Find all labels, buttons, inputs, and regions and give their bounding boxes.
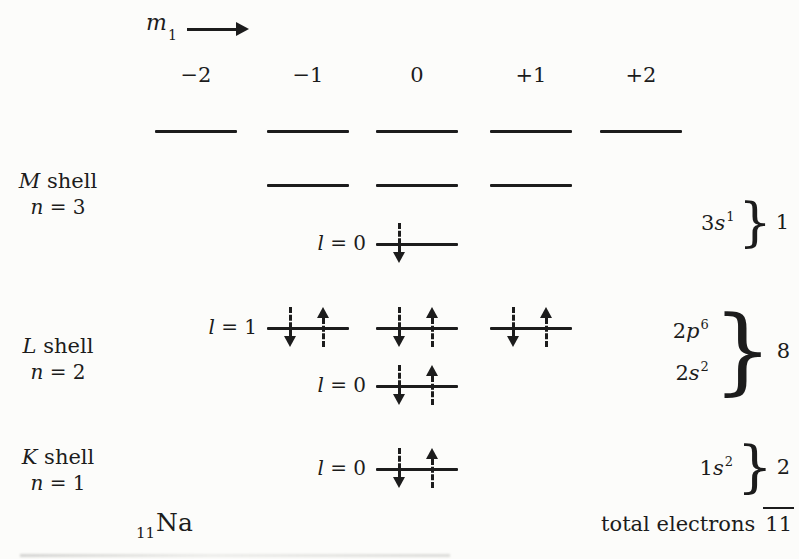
principal-quantum-number: n = 2 bbox=[6, 359, 110, 385]
total-electrons: total electrons 11 bbox=[601, 507, 794, 536]
shell-name: M shell bbox=[6, 168, 110, 194]
k-shell-label: K shell n = 1 bbox=[6, 444, 110, 496]
total-electrons-label: total electrons bbox=[601, 512, 755, 536]
orbital-term-3s1: 3s1 bbox=[701, 210, 734, 235]
total-electrons-value: 11 bbox=[763, 507, 794, 536]
orbital-letter: s bbox=[689, 361, 700, 385]
brace: } bbox=[737, 442, 773, 492]
energy-level-line-3d-m-1 bbox=[267, 130, 349, 133]
atomic-number-subscript: 11 bbox=[136, 524, 155, 542]
orbital-term-1s2: 1s2 bbox=[700, 455, 733, 480]
orbital-coef: 3 bbox=[701, 211, 714, 235]
arrow-dashed-shaft bbox=[545, 318, 548, 347]
arrow-head bbox=[284, 336, 296, 347]
orbital-quantum-label-1s: l = 0 bbox=[274, 454, 366, 482]
orbital-superscript: 2 bbox=[701, 359, 709, 374]
orbital-term-2s2: 2s2 bbox=[675, 360, 708, 385]
arrow-dashed-shaft bbox=[398, 365, 401, 394]
m-shell-label: M shell n = 3 bbox=[6, 168, 110, 220]
energy-level-line-1s-m0 bbox=[376, 468, 458, 471]
energy-level-line-2p-m-1 bbox=[267, 327, 349, 330]
arrow-head bbox=[426, 448, 438, 459]
orbital-letter: s bbox=[714, 211, 725, 235]
sodium-electron-configuration-diagram: m1 −2−10+1+2 l = 0l = 1l = 0l = 0 M shel… bbox=[0, 0, 799, 559]
arrow-dashed-shaft bbox=[398, 448, 401, 477]
m1-value-header--2: −2 bbox=[161, 63, 231, 87]
electron-spin-down-arrow bbox=[393, 448, 405, 488]
energy-level-line-3d-m-2 bbox=[155, 130, 237, 133]
orbital-superscript: 1 bbox=[726, 209, 734, 224]
arrow-head bbox=[507, 336, 519, 347]
arrow-dashed-shaft bbox=[512, 307, 515, 336]
arrow-dashed-shaft bbox=[431, 376, 434, 405]
energy-level-line-3s-m0 bbox=[376, 243, 458, 246]
orbital-letter: p bbox=[686, 319, 699, 343]
energy-level-line-2p-m+1 bbox=[490, 327, 572, 330]
arrow-dashed-shaft bbox=[398, 223, 401, 252]
electron-spin-up-arrow bbox=[426, 448, 438, 488]
m1-value-header-0: 0 bbox=[382, 63, 452, 87]
energy-level-line-3d-m0 bbox=[376, 130, 458, 133]
shell-word: shell bbox=[43, 334, 93, 358]
shell-letter: M bbox=[19, 169, 41, 193]
orbital-coef: 2 bbox=[673, 319, 686, 343]
arrow-head bbox=[393, 477, 405, 488]
electron-spin-up-arrow bbox=[317, 307, 329, 347]
energy-level-line-3d-m+1 bbox=[490, 130, 572, 133]
electron-count-3s: 1 bbox=[776, 210, 789, 234]
energy-level-line-2p-m0 bbox=[376, 327, 458, 330]
n-value: = 2 bbox=[43, 360, 85, 384]
shell-letter: K bbox=[22, 445, 38, 469]
electron-spin-down-arrow bbox=[393, 307, 405, 347]
right-arrow-icon bbox=[187, 22, 251, 36]
element-symbol-na: 11Na bbox=[136, 508, 193, 537]
arrow-head bbox=[426, 365, 438, 376]
arrow-dashed-shaft bbox=[289, 307, 292, 336]
m1-value-header-+1: +1 bbox=[496, 63, 566, 87]
arrow-head bbox=[393, 252, 405, 263]
arrow-shaft bbox=[187, 28, 237, 31]
n-value: = 1 bbox=[43, 471, 85, 495]
arrow-head bbox=[317, 307, 329, 318]
orbital-quantum-label-2p: l = 1 bbox=[165, 313, 257, 341]
arrow-head bbox=[393, 336, 405, 347]
n-value: = 3 bbox=[43, 195, 85, 219]
orbital-superscript: 6 bbox=[701, 317, 709, 332]
electron-count-l-shell: 8 bbox=[777, 339, 790, 363]
shell-name: K shell bbox=[6, 444, 110, 470]
m1-subscript: 1 bbox=[168, 27, 177, 43]
arrow-dashed-shaft bbox=[431, 459, 434, 488]
electron-count-1s: 2 bbox=[777, 455, 790, 479]
l-shell-label: L shell n = 2 bbox=[6, 333, 110, 385]
orbital-coef: 1 bbox=[700, 456, 713, 480]
electron-spin-down-arrow bbox=[507, 307, 519, 347]
energy-level-line-3p-m+1 bbox=[490, 184, 572, 187]
page-crop-text-artifact bbox=[20, 554, 450, 557]
shell-word: shell bbox=[44, 445, 94, 469]
electron-spin-down-arrow bbox=[284, 307, 296, 347]
n-symbol: n bbox=[30, 195, 43, 219]
n-symbol: n bbox=[30, 471, 43, 495]
shell-name: L shell bbox=[6, 333, 110, 359]
m1-value-header-+2: +2 bbox=[606, 63, 676, 87]
principal-quantum-number: n = 3 bbox=[6, 194, 110, 220]
n-symbol: n bbox=[30, 360, 43, 384]
config-group-1s: 1s2 } 2 bbox=[700, 442, 790, 492]
orbital-quantum-label-3s: l = 0 bbox=[274, 229, 366, 257]
brace: } bbox=[713, 309, 773, 394]
shell-letter: L bbox=[23, 334, 37, 358]
electron-spin-down-arrow bbox=[393, 223, 405, 263]
shell-word: shell bbox=[47, 169, 97, 193]
arrow-head bbox=[426, 307, 438, 318]
orbital-letter: s bbox=[713, 456, 724, 480]
arrow-head bbox=[236, 22, 249, 36]
energy-level-line-3p-m0 bbox=[376, 184, 458, 187]
m1-quantum-number-label: m1 bbox=[146, 10, 176, 38]
orbital-quantum-label-2s: l = 0 bbox=[274, 371, 366, 399]
arrow-dashed-shaft bbox=[322, 318, 325, 347]
element-symbol: Na bbox=[156, 508, 193, 537]
config-group-2p-2s: 2p6 2s2 } 8 bbox=[673, 309, 790, 394]
energy-level-line-3d-m+2 bbox=[600, 130, 682, 133]
arrow-dashed-shaft bbox=[431, 318, 434, 347]
orbital-superscript: 2 bbox=[725, 454, 733, 469]
